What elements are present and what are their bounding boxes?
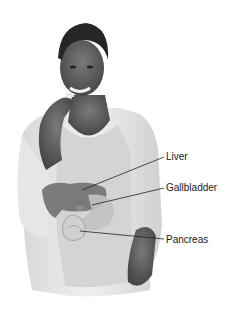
liver-label: Liver xyxy=(166,151,188,162)
head-shape xyxy=(58,23,108,96)
gallbladder-label: Gallbladder xyxy=(166,182,217,193)
anatomy-illustration: Liver Gallbladder Pancreas xyxy=(0,0,231,310)
gallbladder-organ xyxy=(76,205,84,211)
pancreas-label: Pancreas xyxy=(166,234,208,245)
woman-figure-illustration xyxy=(0,0,231,310)
